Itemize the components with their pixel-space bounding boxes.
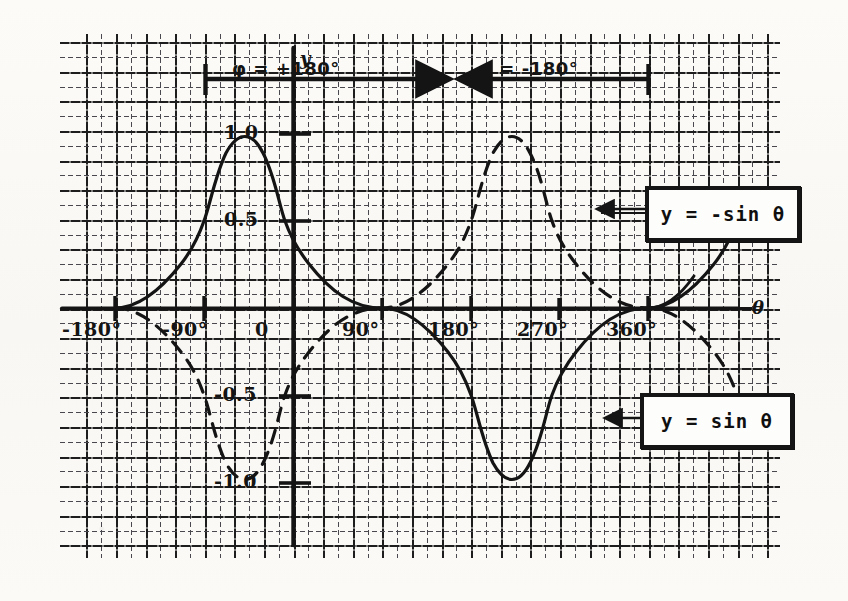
phase-label-plus-180: φ = +180°: [232, 58, 340, 79]
x-axis-label: θ: [752, 297, 765, 318]
ink-layer: [0, 0, 848, 601]
x-tick-label-neg90: -90°: [162, 318, 208, 340]
x-tick-label-270: 270°: [517, 318, 568, 340]
callout-leader-neg: [598, 209, 648, 213]
x-tick-label-360: 360°: [606, 318, 657, 340]
y-tick-label-neg0-5: -0.5: [214, 383, 257, 405]
y-tick-label-0-5: 0.5: [224, 208, 259, 230]
y-tick-label-1: 1.0: [224, 121, 259, 143]
figure-canvas: -180° -90° 0 90° 180° 270° 360° 1.0 0.5 …: [0, 0, 848, 601]
x-tick-label-180: 180°: [428, 318, 479, 340]
x-tick-label-neg180: -180°: [62, 318, 122, 340]
x-tick-label-zero: 0: [255, 318, 269, 340]
x-tick-label-90: 90°: [342, 318, 379, 340]
pos-sine-callout: y = sin θ: [640, 393, 794, 449]
neg-sine-callout: y = -sin θ: [645, 186, 801, 242]
phase-label-minus-180: φ = -180°: [478, 58, 578, 79]
y-tick-label-neg1: -1.0: [214, 470, 257, 492]
